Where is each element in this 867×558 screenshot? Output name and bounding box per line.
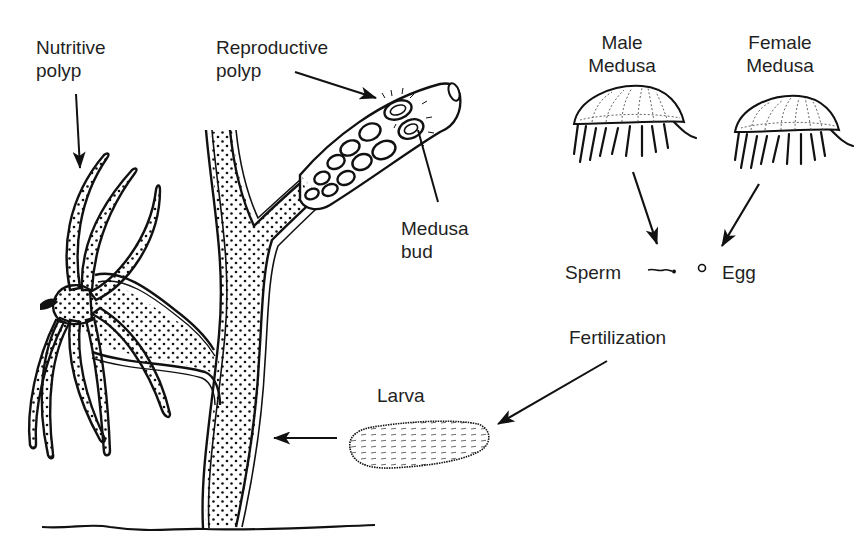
male-to-sperm-arrow — [633, 172, 657, 244]
nutritive-polyp-label: Nutritive polyp — [36, 36, 106, 82]
reproductive-polyp-label: Reproductive polyp — [216, 36, 328, 82]
egg-icon — [699, 265, 706, 272]
male-medusa-label: Male Medusa — [572, 31, 672, 77]
reproductive-polyp — [300, 82, 462, 209]
male-medusa — [574, 86, 696, 162]
larva-label: Larva — [377, 384, 425, 407]
medusa-tentacles — [735, 130, 853, 168]
egg-label: Egg — [722, 261, 756, 284]
nutritive-polyp — [29, 154, 220, 459]
sperm-label: Sperm — [565, 261, 621, 284]
female-medusa — [735, 96, 853, 168]
sperm-icon — [648, 269, 676, 273]
fertilization-label: Fertilization — [569, 326, 666, 349]
fertilization-to-larva-arrow — [498, 361, 607, 424]
female-medusa-label: Female Medusa — [730, 31, 830, 77]
larva — [350, 421, 489, 468]
medusa-tentacles — [574, 122, 696, 162]
medusa-bud-label: Medusa bud — [401, 217, 469, 263]
female-to-egg-arrow — [722, 184, 759, 246]
nutritive-polyp-pointer-arrow — [76, 94, 80, 168]
